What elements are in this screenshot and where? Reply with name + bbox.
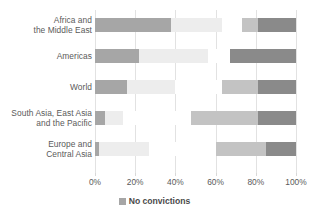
bar-segment [222, 18, 242, 32]
category-label-line: South Asia, East Asia [0, 108, 92, 118]
bar-segment [127, 80, 175, 94]
bar-segment [222, 80, 258, 94]
bar-segment [149, 142, 215, 156]
bar-segment [95, 49, 139, 63]
legend-item-label: No convictions [129, 196, 191, 206]
category-label: South Asia, East Asiaand the Pacific [0, 108, 92, 129]
x-tick-mark [175, 173, 176, 176]
category-label-line: Europe and [0, 139, 92, 149]
x-tick-label: 20% [127, 177, 144, 187]
chart-legend: No convictions [0, 196, 309, 209]
legend-swatch-icon [119, 198, 126, 205]
x-tick-mark [216, 173, 217, 176]
bar-segment [242, 18, 258, 32]
gridline-100 [296, 10, 297, 173]
bar-segment [95, 18, 171, 32]
category-label-line: Africa and [0, 15, 92, 25]
x-tick-mark [95, 173, 96, 176]
bar-segment [258, 80, 296, 94]
bar-segment [95, 111, 105, 125]
bar-row [95, 111, 296, 125]
bar-segment [230, 49, 296, 63]
bar-segment [216, 142, 266, 156]
bar-segment [208, 49, 230, 63]
bar-segment [258, 111, 296, 125]
x-tick-label: 100% [285, 177, 306, 187]
category-label-line: and the Pacific [0, 118, 92, 128]
x-tick-label: 60% [207, 177, 224, 187]
x-tick-mark [296, 173, 297, 176]
x-tick-mark [135, 173, 136, 176]
x-axis: 0%20%40%60%80%100% [95, 173, 296, 187]
bar-row [95, 18, 296, 32]
bar-row [95, 80, 296, 94]
bar-segment [99, 142, 149, 156]
bar-segment [105, 111, 123, 125]
x-tick-label: 0% [89, 177, 101, 187]
category-label: Africa andthe Middle East [0, 15, 92, 36]
x-tick-label: 80% [247, 177, 264, 187]
x-tick-mark [256, 173, 257, 176]
bar-segment [95, 80, 127, 94]
category-label: Americas [0, 51, 92, 61]
bar-segment [171, 18, 221, 32]
bar-segment [139, 49, 207, 63]
stacked-bar-chart: Africa andthe Middle EastAmericasWorldSo… [0, 0, 309, 209]
bar-segment [191, 111, 257, 125]
category-label: Europe andCentral Asia [0, 139, 92, 160]
category-label-line: the Middle East [0, 25, 92, 35]
x-tick-label: 40% [167, 177, 184, 187]
bar-segment [123, 111, 191, 125]
bar-segment [175, 80, 221, 94]
category-label-line: World [0, 82, 92, 92]
category-label-line: Americas [0, 51, 92, 61]
category-axis: Africa andthe Middle EastAmericasWorldSo… [0, 10, 92, 173]
plot-area [95, 10, 296, 173]
bar-row [95, 142, 296, 156]
category-label-line: Central Asia [0, 149, 92, 159]
bar-segment [258, 18, 296, 32]
category-label: World [0, 82, 92, 92]
legend-item-no-convictions: No convictions [119, 196, 191, 206]
bar-segment [266, 142, 296, 156]
bar-row [95, 49, 296, 63]
